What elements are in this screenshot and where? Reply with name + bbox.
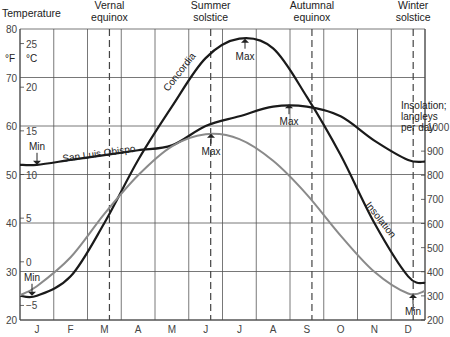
event-label-line1: Summer	[191, 0, 231, 11]
event-label-line1: Vernal	[95, 0, 125, 11]
y-tick-celsius: 25	[26, 39, 38, 50]
event-label-line1: Autumnal	[290, 0, 334, 11]
event-label-line2: solstice	[396, 11, 431, 23]
max-label: Max	[236, 51, 255, 62]
y-tick-fahrenheit: 50	[6, 170, 18, 181]
y-tick-fahrenheit: 20	[6, 315, 18, 326]
y-tick-insolation: 700	[427, 194, 444, 205]
y-tick-celsius: 5	[26, 213, 32, 224]
y-tick-celsius: −5	[26, 300, 38, 311]
gridlines	[20, 29, 425, 320]
y-tick-celsius: 0	[26, 257, 32, 268]
down-arrow-icon	[28, 292, 36, 296]
x-tick-month: J	[203, 324, 208, 335]
event-label-line1: Winter	[398, 0, 429, 11]
y-axis-title: Temperature	[2, 7, 61, 19]
climate-chart: 203040506070802520151050−510009008007006…	[0, 0, 450, 337]
event-label-line2: equinox	[294, 11, 332, 23]
y-tick-insolation: 400	[427, 267, 444, 278]
min-label: Min	[29, 141, 45, 152]
max-label: Max	[202, 146, 221, 157]
x-tick-month: J	[237, 324, 242, 335]
x-tick-month: N	[371, 324, 378, 335]
max-label: Max	[280, 116, 299, 127]
y-tick-fahrenheit: 60	[6, 121, 18, 132]
y-tick-fahrenheit: 30	[6, 267, 18, 278]
san-luis-obispo-label: San Luis Obispo	[62, 143, 137, 164]
x-tick-month: J	[34, 324, 39, 335]
event-label-line2: solstice	[193, 11, 228, 23]
x-tick-month: A	[270, 324, 277, 335]
insolation-axis-title-3: per day:	[401, 122, 437, 133]
y-tick-insolation: 300	[427, 291, 444, 302]
x-tick-month: A	[135, 324, 142, 335]
y-tick-celsius: 15	[26, 126, 38, 137]
fahrenheit-unit: °F	[5, 53, 15, 64]
x-tick-month: M	[100, 324, 108, 335]
y-tick-insolation: 200	[427, 315, 444, 326]
x-tick-month: S	[304, 324, 311, 335]
min-label: Min	[24, 272, 40, 283]
y-tick-insolation: 500	[427, 243, 444, 254]
x-tick-month: M	[168, 324, 176, 335]
insolation-axis-title-2: langleys	[401, 111, 438, 122]
chart-canvas: 203040506070802520151050−510009008007006…	[0, 0, 450, 337]
x-tick-month: D	[405, 324, 412, 335]
insolation-axis-title-1: Insolation;	[401, 100, 447, 111]
annotations: Temperature °F °C Insolation; langleys p…	[2, 7, 447, 240]
y-tick-celsius: 20	[26, 82, 38, 93]
min-label: Min	[405, 306, 421, 317]
celsius-unit: °C	[26, 53, 37, 64]
axes: 203040506070802520151050−510009008007006…	[6, 0, 450, 335]
y-tick-fahrenheit: 70	[6, 73, 18, 84]
y-tick-insolation: 900	[427, 146, 444, 157]
y-tick-insolation: 600	[427, 219, 444, 230]
concordia-label: Concordia	[161, 50, 198, 93]
y-tick-insolation: 800	[427, 170, 444, 181]
x-tick-month: O	[337, 324, 345, 335]
y-tick-celsius: 10	[26, 170, 38, 181]
y-tick-fahrenheit: 40	[6, 218, 18, 229]
event-label-line2: equinox	[91, 11, 129, 23]
x-tick-month: F	[68, 324, 74, 335]
y-tick-fahrenheit: 80	[6, 24, 18, 35]
